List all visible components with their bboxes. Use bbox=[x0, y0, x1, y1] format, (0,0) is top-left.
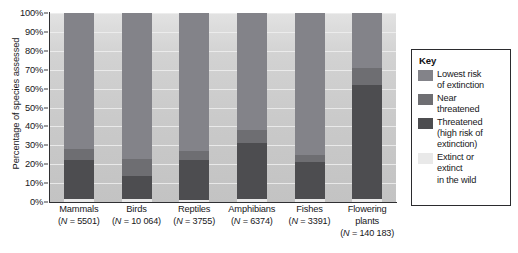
y-axis-tick-label: 60% bbox=[25, 84, 43, 94]
x-axis-category-label: Reptiles(N = 3755) bbox=[165, 204, 223, 228]
category-name: Reptiles bbox=[165, 204, 223, 216]
bar-segment bbox=[237, 13, 267, 130]
x-axis-category-label: Amphibians(N = 6374) bbox=[223, 204, 281, 228]
gridline bbox=[50, 126, 396, 127]
y-axis-tick-label: 10% bbox=[25, 178, 43, 188]
legend-item: Threatened(high risk ofextinction) bbox=[418, 117, 505, 151]
bar-segment bbox=[295, 155, 325, 163]
category-sample-size: (N = 5501) bbox=[50, 216, 108, 228]
y-axis-tick-label: 40% bbox=[25, 121, 43, 131]
bar-segment bbox=[64, 13, 94, 149]
bar-reptiles bbox=[179, 13, 209, 202]
y-axis-tick-label: 80% bbox=[25, 46, 43, 56]
stacked-bar-chart-figure: Percentage of species assessed 0%10%20%3… bbox=[0, 0, 518, 253]
category-name: Birds bbox=[108, 204, 166, 216]
bar-segment bbox=[64, 149, 94, 160]
legend-color-swatch bbox=[418, 70, 433, 81]
gridline bbox=[50, 183, 396, 184]
bar-segment bbox=[352, 13, 382, 68]
y-axis-tick-mark bbox=[44, 13, 48, 14]
y-axis-tick-label: 0% bbox=[30, 197, 43, 207]
gridline bbox=[50, 70, 396, 71]
category-name: Floweringplants bbox=[338, 204, 396, 228]
bar-segment bbox=[122, 13, 152, 159]
bar-birds bbox=[122, 13, 152, 202]
category-sample-size: (N = 6374) bbox=[223, 216, 281, 228]
gridline bbox=[50, 145, 396, 146]
y-axis-tick-mark bbox=[44, 107, 48, 108]
legend-item-label: Threatened(high risk ofextinction) bbox=[437, 117, 483, 151]
bar-amphibians bbox=[237, 13, 267, 202]
y-axis-tick-label: 90% bbox=[25, 27, 43, 37]
bar-segment bbox=[237, 130, 267, 143]
y-axis-tick-mark bbox=[44, 183, 48, 184]
gridline bbox=[50, 108, 396, 109]
bar-fishes bbox=[295, 13, 325, 202]
y-axis-tick-mark bbox=[44, 50, 48, 51]
y-axis-tick-mark bbox=[44, 88, 48, 89]
bar-segment bbox=[295, 13, 325, 155]
bar-segment bbox=[179, 13, 209, 151]
x-axis-category-label: Floweringplants(N = 140 183) bbox=[338, 204, 396, 239]
y-axis-tick-label: 20% bbox=[25, 159, 43, 169]
x-axis-category-label: Fishes(N = 3391) bbox=[281, 204, 339, 228]
x-axis-category-label: Birds(N = 10 064) bbox=[108, 204, 166, 228]
category-sample-size: (N = 3391) bbox=[281, 216, 339, 228]
bar-segment bbox=[122, 176, 152, 200]
bar-segment bbox=[179, 151, 209, 160]
y-axis-tick-mark bbox=[44, 69, 48, 70]
legend-items: Lowest riskof extinctionNearthreatenedTh… bbox=[418, 69, 505, 186]
legend-color-swatch bbox=[418, 94, 433, 105]
legend-item: Lowest riskof extinction bbox=[418, 69, 505, 92]
legend-box: Key Lowest riskof extinctionNearthreaten… bbox=[411, 49, 511, 206]
y-axis-tick-mark bbox=[44, 202, 48, 203]
bar-segment bbox=[352, 85, 382, 199]
y-axis-tick-mark bbox=[44, 164, 48, 165]
legend-color-swatch bbox=[418, 153, 433, 164]
legend-item-label: Extinct orextinctin the wild bbox=[437, 152, 476, 186]
gridline bbox=[50, 32, 396, 33]
y-axis-tick-label: 70% bbox=[25, 65, 43, 75]
legend-title: Key bbox=[419, 55, 505, 66]
y-axis-tick-labels: 0%10%20%30%40%50%60%70%80%90%100% bbox=[8, 0, 48, 253]
bar-segment bbox=[64, 160, 94, 199]
y-axis-tick-label: 100% bbox=[20, 8, 43, 18]
category-sample-size: (N = 140 183) bbox=[338, 228, 396, 240]
y-axis-tick-label: 50% bbox=[25, 103, 43, 113]
y-axis-tick-label: 30% bbox=[25, 140, 43, 150]
gridline bbox=[50, 13, 396, 14]
y-axis-line bbox=[49, 12, 50, 203]
x-axis-category-label: Mammals(N = 5501) bbox=[50, 204, 108, 228]
legend-item-label: Lowest riskof extinction bbox=[437, 69, 484, 92]
legend-item: Extinct orextinctin the wild bbox=[418, 152, 505, 186]
legend-color-swatch bbox=[418, 118, 433, 129]
bar-segment bbox=[352, 68, 382, 85]
bar-mammals bbox=[64, 13, 94, 202]
y-axis-tick-mark bbox=[44, 126, 48, 127]
bar-segment bbox=[179, 160, 209, 200]
category-sample-size: (N = 3755) bbox=[165, 216, 223, 228]
category-name: Amphibians bbox=[223, 204, 281, 216]
category-name: Mammals bbox=[50, 204, 108, 216]
category-name: Fishes bbox=[281, 204, 339, 216]
gridline bbox=[50, 89, 396, 90]
bar-segment bbox=[122, 159, 152, 175]
bar-segment bbox=[295, 162, 325, 199]
legend-item-label: Nearthreatened bbox=[437, 93, 479, 116]
category-sample-size: (N = 10 064) bbox=[108, 216, 166, 228]
plot-area bbox=[50, 13, 396, 202]
legend-item: Nearthreatened bbox=[418, 93, 505, 116]
gridline bbox=[50, 164, 396, 165]
y-axis-tick-mark bbox=[44, 145, 48, 146]
gridline bbox=[50, 51, 396, 52]
x-axis-category-labels: Mammals(N = 5501)Birds(N = 10 064)Reptil… bbox=[50, 204, 396, 253]
y-axis-tick-mark bbox=[44, 31, 48, 32]
bar-segment bbox=[237, 143, 267, 199]
bar-flowering-plants bbox=[352, 13, 382, 202]
